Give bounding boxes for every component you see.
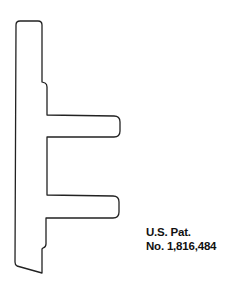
caption-line-2: No. 1,816,484 <box>146 239 216 253</box>
patent-caption: U.S. Pat. No. 1,816,484 <box>146 225 216 253</box>
cropped-label <box>104 278 134 284</box>
key-blank-outline <box>15 21 120 273</box>
caption-line-1: U.S. Pat. <box>146 225 216 239</box>
